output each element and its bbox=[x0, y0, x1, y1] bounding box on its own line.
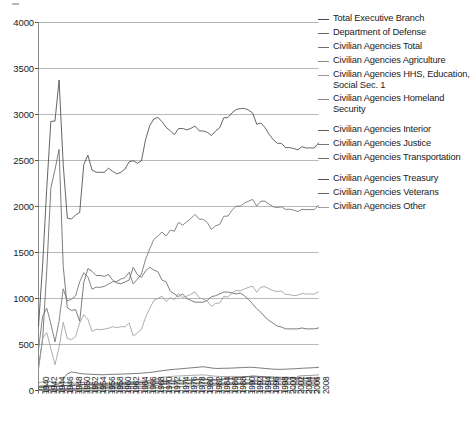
y-axis-tick-label: 3000 bbox=[2, 109, 34, 120]
legend-item-label: Civilian Agencies Total bbox=[333, 41, 422, 52]
legend-item[interactable]: Civilian Agencies HHS, Education, Social… bbox=[318, 69, 471, 92]
series-line bbox=[39, 80, 319, 326]
legend-item[interactable]: Department of Defense bbox=[318, 27, 471, 40]
y-axis-tick-label: 4000 bbox=[2, 17, 34, 28]
y-axis-tick-label: 2500 bbox=[2, 155, 34, 166]
legend-item[interactable]: Total Executive Branch bbox=[318, 13, 471, 26]
legend-line-swatch-icon bbox=[318, 19, 329, 20]
y-axis-tick-label: 0 bbox=[2, 385, 34, 396]
legend-line-swatch-icon bbox=[318, 47, 329, 48]
x-axis-tick-label: 1996 bbox=[272, 377, 281, 394]
plot-svg bbox=[0, 0, 330, 431]
legend-item-label: Civilian Agencies Justice bbox=[333, 138, 431, 149]
axis-ticks bbox=[35, 23, 319, 394]
legend-line-swatch-icon bbox=[318, 207, 329, 208]
legend-line-swatch-icon bbox=[318, 179, 329, 180]
legend-item-label: Civilian Agencies Treasury bbox=[333, 173, 438, 184]
legend-item-label: Civilian Agencies Interior bbox=[333, 124, 431, 135]
legend-group-spacer bbox=[318, 166, 471, 173]
legend-item-label: Civilian Agencies HHS, Education, Social… bbox=[333, 69, 471, 92]
y-axis-tick-label: 1000 bbox=[2, 293, 34, 304]
y-axis-tick-label: 2000 bbox=[2, 201, 34, 212]
x-axis-tick-label: 1962 bbox=[132, 377, 141, 394]
legend-line-swatch-icon bbox=[318, 33, 329, 34]
legend-item[interactable]: Civilian Agencies Homeland Security bbox=[318, 93, 471, 116]
legend-group-spacer bbox=[318, 117, 471, 124]
legend-line-swatch-icon bbox=[318, 61, 329, 62]
chart-container: 05001000150020002500300035004000 1940194… bbox=[0, 0, 471, 431]
legend-item[interactable]: Civilian Agencies Treasury bbox=[318, 173, 471, 186]
x-axis-tick-label: 2008 bbox=[322, 377, 331, 394]
legend-line-swatch-icon bbox=[318, 158, 329, 159]
legend-item[interactable]: Civilian Agencies Total bbox=[318, 41, 471, 54]
series-lines bbox=[39, 80, 319, 390]
legend-item-label: Total Executive Branch bbox=[333, 13, 424, 24]
y-axis-tick-label: 3500 bbox=[2, 63, 34, 74]
legend-item-label: Department of Defense bbox=[333, 27, 426, 38]
legend-line-swatch-icon bbox=[318, 144, 329, 145]
y-axis-tick-label: 1500 bbox=[2, 247, 34, 258]
chart-legend: Total Executive BranchDepartment of Defe… bbox=[318, 13, 471, 215]
legend-item[interactable]: Civilian Agencies Other bbox=[318, 201, 471, 214]
x-axis-tick-label: 1988 bbox=[239, 377, 248, 394]
legend-item-label: Civilian Agencies Agriculture bbox=[333, 55, 445, 66]
legend-item[interactable]: Civilian Agencies Justice bbox=[318, 138, 471, 151]
legend-item-label: Civilian Agencies Transportation bbox=[333, 152, 461, 163]
series-line bbox=[39, 149, 319, 366]
series-line bbox=[39, 199, 319, 349]
plot-area: 05001000150020002500300035004000 1940194… bbox=[0, 0, 330, 431]
legend-item[interactable]: Civilian Agencies Veterans bbox=[318, 187, 471, 200]
legend-item-label: Civilian Agencies Homeland Security bbox=[333, 93, 471, 116]
legend-item-label: Civilian Agencies Veterans bbox=[333, 187, 439, 198]
legend-line-swatch-icon bbox=[318, 193, 329, 194]
legend-line-swatch-icon bbox=[318, 99, 329, 100]
y-axis-tick-label: 500 bbox=[2, 339, 34, 350]
legend-item-label: Civilian Agencies Other bbox=[333, 201, 426, 212]
legend-item[interactable]: Civilian Agencies Transportation bbox=[318, 152, 471, 165]
legend-line-swatch-icon bbox=[318, 75, 329, 76]
legend-item[interactable]: Civilian Agencies Agriculture bbox=[318, 55, 471, 68]
legend-line-swatch-icon bbox=[318, 130, 329, 131]
x-axis-tick-label: 1954 bbox=[99, 377, 108, 394]
legend-item[interactable]: Civilian Agencies Interior bbox=[318, 124, 471, 137]
